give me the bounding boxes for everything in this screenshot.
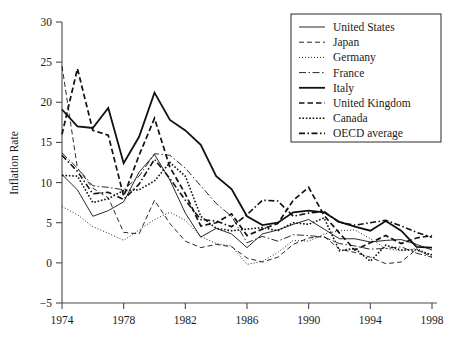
legend-label-canada: Canada xyxy=(333,112,367,124)
x-tick-label: 1990 xyxy=(297,314,320,326)
inflation-rate-line-chart: −5051015202530 Inflation Rate 1974197819… xyxy=(0,0,456,342)
y-tick-label: 10 xyxy=(41,177,53,189)
x-tick-label: 1974 xyxy=(51,314,74,326)
chart-legend: United StatesJapanGermanyFranceItalyUnit… xyxy=(291,14,441,142)
y-tick-label: 0 xyxy=(46,257,52,269)
legend-label-united-states: United States xyxy=(333,21,395,33)
x-tick-label: 1994 xyxy=(359,314,382,326)
y-tick-label: 25 xyxy=(41,56,53,68)
x-tick-label: 1986 xyxy=(236,314,259,326)
x-tick-label: 1982 xyxy=(174,314,197,326)
y-tick-label: 20 xyxy=(41,96,53,108)
y-tick-label: 5 xyxy=(46,217,52,229)
legend-label-japan: Japan xyxy=(333,36,359,49)
x-axis: 1974197819821986199019941998 xyxy=(51,303,444,326)
x-tick-group: 1974197819821986199019941998 xyxy=(51,303,444,326)
legend-label-oecd-average: OECD average xyxy=(333,127,403,140)
y-tick-label: 15 xyxy=(41,136,53,148)
legend-label-france: France xyxy=(333,67,364,79)
x-tick-label: 1998 xyxy=(421,314,444,326)
series-line-canada xyxy=(62,163,432,262)
y-tick-label: −5 xyxy=(40,297,52,309)
y-axis-title: Inflation Rate xyxy=(8,131,20,195)
y-tick-label: 30 xyxy=(41,16,53,28)
legend-label-italy: Italy xyxy=(333,82,354,95)
x-tick-label: 1978 xyxy=(112,314,135,326)
legend-label-united-kingdom: United Kingdom xyxy=(333,97,411,110)
y-axis: −5051015202530 Inflation Rate xyxy=(8,16,62,309)
chart-svg: −5051015202530 Inflation Rate 1974197819… xyxy=(0,0,456,342)
legend-label-germany: Germany xyxy=(333,51,376,64)
y-tick-group: −5051015202530 xyxy=(40,16,62,309)
series-line-oecd-average xyxy=(62,155,432,237)
